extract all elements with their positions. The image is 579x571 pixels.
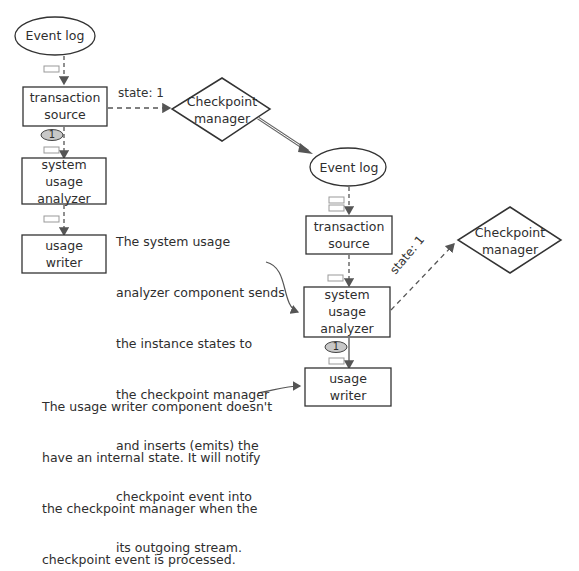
label-line: usage (22, 173, 106, 190)
label-line: manager (468, 241, 552, 258)
label-line: analyzer (304, 320, 390, 337)
note-line: the instance states to (116, 335, 285, 352)
system-usage-analyzer-label-right: system usage analyzer (304, 286, 390, 337)
label-line: usage (22, 237, 106, 254)
event-box-icon (44, 216, 59, 222)
label-line: writer (305, 387, 391, 404)
transaction-source-label-left: transaction source (23, 89, 107, 123)
label-line: manager (180, 110, 264, 127)
note-line: The system usage (116, 233, 285, 250)
label-line: system (22, 156, 106, 173)
event-box-icon (329, 205, 344, 211)
label-line: transaction (23, 89, 107, 106)
usage-writer-label-left: usage writer (22, 237, 106, 271)
event-box-icon (44, 147, 59, 153)
note-line: checkpoint event is processed. (42, 551, 272, 568)
checkpoint-manager-label-left: Checkpoint manager (180, 93, 264, 127)
label-line: Checkpoint (468, 224, 552, 241)
barrier-label-right: 1 (330, 339, 342, 355)
event-log-label-right: Event log (310, 159, 388, 176)
event-box-icon (328, 275, 343, 281)
label-line: writer (22, 254, 106, 271)
event-box-icon (44, 66, 59, 72)
transaction-source-label-right: transaction source (306, 218, 392, 252)
event-box-icon (329, 358, 344, 364)
label-line: transaction (306, 218, 392, 235)
usage-writer-label-right: usage writer (305, 370, 391, 404)
system-usage-analyzer-label-left: system usage analyzer (22, 156, 106, 207)
event-log-label-left: Event log (15, 27, 95, 44)
label-line: Checkpoint (180, 93, 264, 110)
note-line: the checkpoint manager when the (42, 500, 272, 517)
state-label-left: state: 1 (118, 86, 164, 100)
barrier-label-left: 1 (46, 127, 58, 143)
note-line: have an internal state. It will notify (42, 449, 272, 466)
label-line: usage (305, 370, 391, 387)
checkpoint-manager-label-right: Checkpoint manager (468, 224, 552, 258)
event-box-icon (329, 197, 344, 203)
label-line: source (23, 106, 107, 123)
label-line: system (304, 286, 390, 303)
writer-note: The usage writer component doesn't have … (42, 364, 272, 571)
label-line: source (306, 235, 392, 252)
label-line: analyzer (22, 190, 106, 207)
note-line: analyzer component sends (116, 284, 285, 301)
label-line: usage (304, 303, 390, 320)
note-line: The usage writer component doesn't (42, 398, 272, 415)
